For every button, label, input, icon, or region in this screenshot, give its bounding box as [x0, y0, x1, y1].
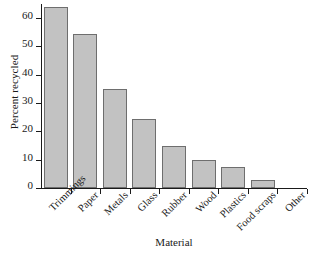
- bar: [251, 180, 275, 188]
- y-tick-label: 50: [22, 38, 33, 49]
- plot-area: 0102030405060: [41, 4, 307, 189]
- y-tick-label: 30: [22, 95, 33, 106]
- y-tick-label: 40: [22, 67, 33, 78]
- bar: [44, 7, 68, 188]
- bar: [103, 89, 127, 188]
- y-tick-label: 60: [22, 10, 33, 21]
- y-axis-title: Percent recycled: [8, 22, 20, 162]
- bar: [192, 160, 216, 188]
- x-axis-title: Material: [41, 236, 307, 248]
- bar: [162, 146, 186, 188]
- bar: [73, 34, 97, 188]
- y-tick-label: 20: [22, 123, 33, 134]
- y-tick-label: 10: [22, 152, 33, 163]
- bar-chart: Percent recycled 0102030405060 Trimmings…: [0, 0, 314, 256]
- bar: [132, 119, 156, 188]
- bar-series: [41, 4, 307, 189]
- bar: [221, 167, 245, 188]
- y-tick-label: 0: [28, 180, 34, 191]
- x-tick-label: Trimmings: [48, 190, 72, 214]
